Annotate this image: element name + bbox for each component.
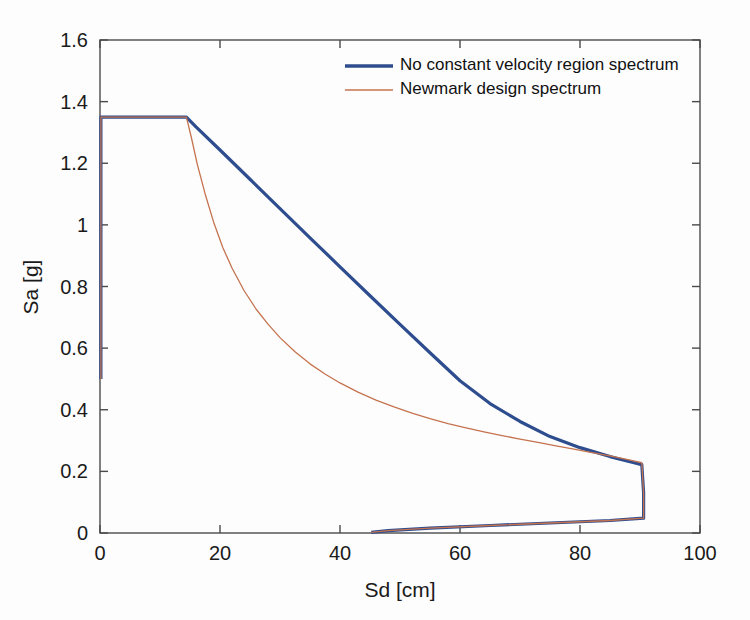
- plot-frame: [100, 40, 700, 533]
- legend-label-1: Newmark design spectrum: [400, 79, 601, 98]
- x-tick-label-4: 80: [569, 542, 591, 564]
- data-series-group: [101, 117, 644, 532]
- y-tick-label-2: 0.4: [60, 399, 88, 421]
- y-tick-label-1: 0.2: [60, 460, 88, 482]
- x-axis-title: Sd [cm]: [364, 578, 435, 601]
- y-tick-label-8: 1.6: [60, 29, 88, 51]
- series-line-1: [101, 117, 644, 532]
- y-axis-tick-labels: 00.20.40.60.811.21.41.6: [60, 29, 88, 544]
- chart-legend: No constant velocity region spectrumNewm…: [345, 55, 679, 98]
- y-tick-label-7: 1.4: [60, 91, 88, 113]
- chart-plot: 020406080100 00.20.40.60.811.21.41.6 Sd …: [0, 0, 750, 620]
- legend-label-0: No constant velocity region spectrum: [400, 55, 679, 74]
- x-tick-label-0: 0: [94, 542, 105, 564]
- figure-canvas: 020406080100 00.20.40.60.811.21.41.6 Sd …: [0, 0, 750, 620]
- y-tick-label-6: 1.2: [60, 152, 88, 174]
- y-tick-label-5: 1: [77, 214, 88, 236]
- y-axis-title: Sa [g]: [19, 260, 42, 315]
- y-tick-label-3: 0.6: [60, 337, 88, 359]
- series-line-0: [101, 117, 644, 532]
- x-axis-tick-labels: 020406080100: [94, 542, 716, 564]
- x-tick-label-1: 20: [209, 542, 231, 564]
- x-tick-label-3: 60: [449, 542, 471, 564]
- x-axis-ticks: [100, 40, 700, 533]
- x-tick-label-5: 100: [683, 542, 716, 564]
- y-tick-label-0: 0: [77, 522, 88, 544]
- x-tick-label-2: 40: [329, 542, 351, 564]
- y-tick-label-4: 0.8: [60, 276, 88, 298]
- y-axis-ticks: [100, 40, 700, 533]
